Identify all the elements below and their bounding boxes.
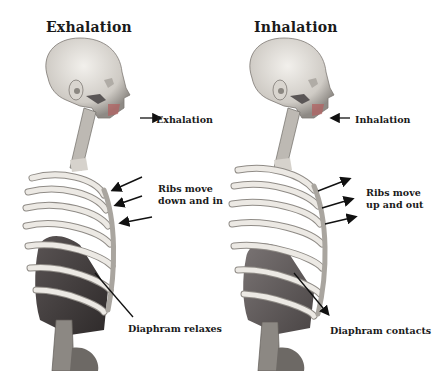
- ribs-label-line2: up and out: [366, 199, 424, 211]
- inhalation-skeleton-illustration: [222, 0, 443, 371]
- airflow-label: Exhalation: [156, 114, 213, 126]
- ribs-label-line2: down and in: [158, 195, 223, 207]
- rib-arrow-icon: [116, 196, 142, 205]
- rib-arrow-icon: [325, 217, 355, 224]
- rib-arrow-icon: [121, 217, 152, 223]
- inhalation-panel: Inhalation: [222, 0, 443, 371]
- skull-icon: [250, 38, 334, 118]
- diaphragm-label: Diaphram relaxes: [128, 323, 222, 335]
- diaphragm-label: Diaphram contacts: [330, 325, 431, 337]
- rib-arrow-icon: [113, 177, 142, 190]
- rib-arrow-icon: [322, 199, 352, 208]
- airflow-label: Inhalation: [355, 114, 410, 126]
- ribs-label-line1: Ribs move: [158, 183, 213, 195]
- rib-arrow-icon: [318, 179, 349, 191]
- skull-icon: [46, 38, 130, 118]
- ribs-label-line1: Ribs move: [366, 187, 421, 199]
- exhalation-panel: Exhalation: [0, 0, 222, 371]
